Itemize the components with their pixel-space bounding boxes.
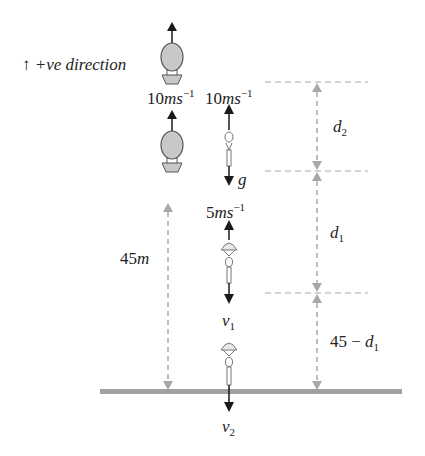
- arrow-down-icon: [312, 161, 322, 170]
- arrow-down-icon: [224, 402, 234, 412]
- d1-label: d1: [330, 224, 344, 244]
- v2-label: v2: [222, 418, 235, 438]
- gravity-label: g: [238, 171, 247, 188]
- 45-minus-d1-dimension: [312, 294, 322, 390]
- balloon-basket: [162, 163, 182, 172]
- free-fall-diagram: ↑ +ve direction 10ms−1 10ms−1 g 5ms−1 45…: [0, 0, 425, 456]
- balloon-top: [161, 22, 183, 84]
- balloon-lower: [161, 110, 183, 172]
- parachute-canopy: [221, 343, 237, 350]
- arrow-up-icon: [167, 22, 177, 31]
- parachutist-mid: [221, 220, 237, 304]
- arrow-down-icon: [224, 294, 234, 304]
- arrow-up-icon: [167, 110, 177, 119]
- balloon-envelope: [161, 131, 183, 159]
- arrow-up-icon: [312, 83, 322, 92]
- initial-velocity-label: 10ms−1: [205, 88, 253, 107]
- arrow-up-icon: [312, 294, 322, 303]
- mid-velocity-label: 5ms−1: [206, 202, 245, 221]
- arrow-down-icon: [163, 381, 173, 390]
- d2-dimension: [312, 83, 322, 170]
- balloon-basket: [162, 75, 182, 84]
- parachutist-ground: [221, 343, 237, 412]
- balloon-velocity-label: 10ms−1: [147, 88, 195, 107]
- height-dimension: [163, 203, 173, 390]
- d2-label: d2: [333, 118, 347, 138]
- parachute-canopy: [221, 243, 237, 250]
- parachutist-release: [224, 104, 234, 186]
- arrow-down-icon: [312, 381, 322, 390]
- 45-minus-d1-label: 45 − d1: [330, 333, 379, 353]
- arrow-down-icon: [312, 283, 322, 292]
- arrow-up-icon: [163, 203, 173, 212]
- balloon-envelope: [161, 43, 183, 71]
- v1-label: v1: [222, 312, 235, 332]
- height-label: 45m: [120, 250, 149, 267]
- arrow-down-icon: [224, 176, 234, 186]
- ground-line: [100, 389, 402, 394]
- arrow-up-icon: [312, 172, 322, 181]
- up-arrow-icon: ↑: [22, 55, 31, 74]
- direction-label: ↑ +ve direction: [22, 56, 126, 73]
- d1-dimension: [312, 172, 322, 292]
